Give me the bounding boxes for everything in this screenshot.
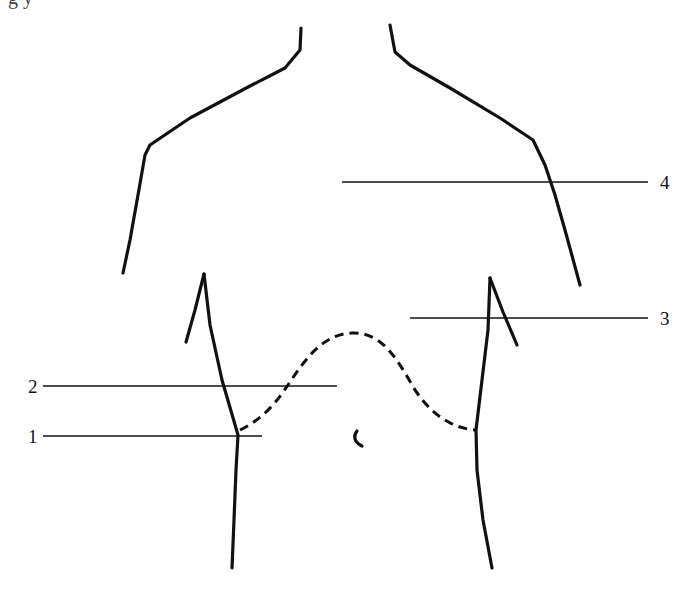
label-3: 3: [660, 308, 670, 329]
left-shoulder-outline: [123, 28, 301, 273]
label-4: 4: [660, 172, 670, 193]
label-2: 2: [28, 376, 38, 397]
navel-mark: [355, 431, 362, 446]
right-shoulder-outline: [390, 25, 580, 285]
left-inner-arm-outline: [186, 274, 204, 342]
left-torso-outline: [204, 274, 238, 568]
right-torso-outline: [476, 278, 492, 568]
label-1: 1: [28, 426, 38, 447]
right-inner-arm-outline: [490, 278, 517, 345]
costal-margin-dashed-curve: [240, 333, 475, 430]
torso-diagram: 1 2 3 4: [0, 0, 684, 591]
